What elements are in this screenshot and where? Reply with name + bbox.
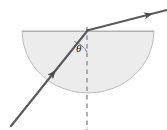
refraction-diagram: θ bbox=[0, 0, 167, 130]
refracted-ray-arrowhead bbox=[128, 14, 153, 20]
block-body bbox=[22, 31, 154, 93]
refracted-ray bbox=[87, 10, 167, 31]
semicircular-block bbox=[22, 31, 154, 93]
refracted-ray-line bbox=[87, 10, 167, 31]
figure-canvas: θ bbox=[0, 0, 167, 130]
angle-theta-label: θ bbox=[76, 42, 82, 54]
